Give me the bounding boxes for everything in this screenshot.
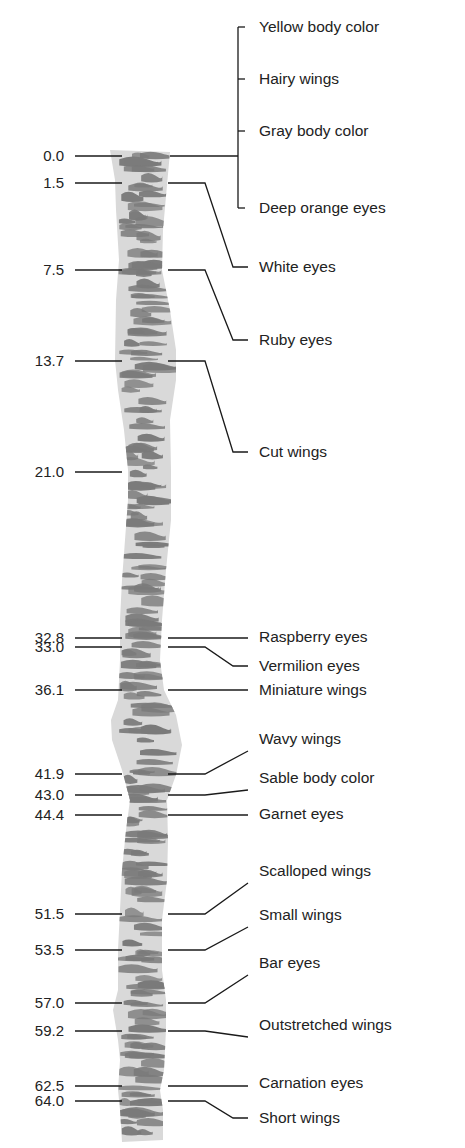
trait-label: Cut wings: [259, 443, 327, 461]
chromosome-band: [134, 671, 173, 679]
trait-connector: [168, 927, 248, 950]
chromosome-band: [143, 363, 182, 373]
trait-connector: [168, 883, 248, 914]
locus-position-label: 53.5: [20, 942, 64, 958]
chromosome-band: [137, 1118, 171, 1126]
trait-label: Outstretched wings: [259, 1016, 392, 1034]
trait-label: Scalloped wings: [259, 862, 371, 880]
chromosome-band: [136, 301, 176, 305]
chromosome-band: [138, 564, 172, 569]
trait-label: Wavy wings: [259, 730, 341, 748]
chromosome-band: [143, 1009, 172, 1016]
chromosome-band: [135, 1075, 174, 1084]
trait-label: Deep orange eyes: [259, 199, 386, 217]
locus-position-label: 0.0: [20, 148, 64, 164]
locus-position-label: 59.2: [20, 1023, 64, 1039]
locus-position-label: 64.0: [20, 1093, 64, 1109]
trait-connector: [168, 790, 248, 795]
locus-position-label: 7.5: [20, 262, 64, 278]
trait-label: Gray body color: [259, 122, 368, 140]
chromosome-band: [141, 1058, 176, 1068]
locus-position-label: 1.5: [20, 175, 64, 191]
trait-connector: [168, 647, 248, 666]
locus-position-label: 41.9: [20, 766, 64, 782]
chromosome-drawing: [0, 0, 465, 1148]
trait-label: Miniature wings: [259, 681, 367, 699]
trait-label: Ruby eyes: [259, 331, 332, 349]
trait-connector: [168, 270, 248, 340]
chromosome-band: [140, 931, 183, 936]
trait-connector: [168, 1101, 248, 1118]
trait-label: Hairy wings: [259, 70, 339, 88]
trait-label: Short wings: [259, 1109, 340, 1127]
trait-connector: [168, 361, 248, 452]
trait-label: Sable body color: [259, 769, 374, 787]
trait-connector: [168, 183, 248, 267]
trait-label: Bar eyes: [259, 954, 320, 972]
trait-label: White eyes: [259, 258, 336, 276]
locus-position-label: 44.4: [20, 807, 64, 823]
trait-label: Vermilion eyes: [259, 657, 360, 675]
trait-connector: [168, 1031, 248, 1037]
locus-position-label: 43.0: [20, 787, 64, 803]
locus-position-label: 57.0: [20, 995, 64, 1011]
chromosome-band: [136, 862, 174, 866]
locus-position-label: 51.5: [20, 906, 64, 922]
chromosome-band: [130, 1099, 168, 1106]
trait-connector: [168, 975, 248, 1003]
locus-position-label: 33.0: [20, 639, 64, 655]
linkage-map: 0.01.57.513.721.032.833.036.141.943.044.…: [0, 0, 465, 1148]
trait-label: Small wings: [259, 906, 342, 924]
trait-label: Yellow body color: [259, 18, 379, 36]
chromosome-band: [140, 250, 174, 258]
trait-label: Garnet eyes: [259, 805, 343, 823]
chromosome-band: [141, 595, 174, 606]
chromosome-band: [139, 626, 182, 631]
locus-position-label: 36.1: [20, 682, 64, 698]
trait-label: Carnation eyes: [259, 1074, 363, 1092]
locus-position-label: 21.0: [20, 464, 64, 480]
trait-label: Raspberry eyes: [259, 628, 368, 646]
chromosome-band: [141, 573, 172, 580]
chromosome-band: [142, 306, 180, 312]
locus-position-label: 13.7: [20, 353, 64, 369]
